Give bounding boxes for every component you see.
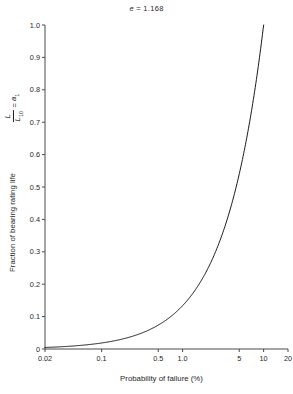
chart-figure: e = 1.168 00.10.20.30.40.50.60.70.80.91.… [0, 0, 293, 394]
fraction-numerator: L [4, 113, 13, 119]
y-axis-fraction: L L10 [4, 110, 24, 123]
x-tick-label: 20 [272, 354, 293, 363]
x-tick-label: 0.1 [86, 354, 118, 363]
x-axis-label: Probability of failure (%) [30, 374, 293, 383]
plot-canvas [0, 0, 293, 394]
y-tick-label: 1.0 [8, 21, 40, 30]
x-tick-label: 0.02 [29, 354, 61, 363]
data-curve [45, 25, 264, 347]
y-axis-label: Fraction of bearing rating life [8, 123, 17, 323]
fraction-denominator: L10 [13, 110, 24, 123]
x-tick-label: 1.0 [167, 354, 199, 363]
formula-result: a1 [9, 94, 20, 102]
y-tick-label: 0 [8, 345, 40, 354]
y-tick-label: 0.9 [8, 53, 40, 62]
data-series-group [45, 25, 264, 347]
formula-equals: = [10, 103, 19, 108]
axes-group [45, 25, 288, 349]
